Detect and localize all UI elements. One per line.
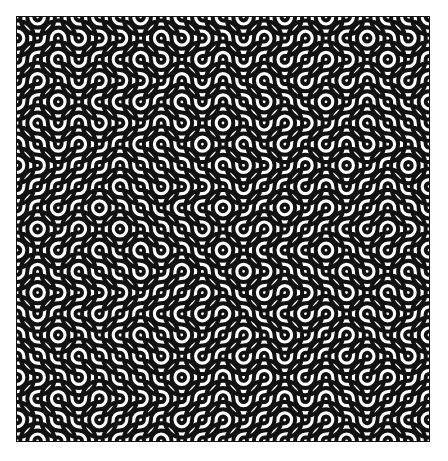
pattern-canvas	[17, 17, 429, 441]
truchet-pattern	[16, 16, 430, 442]
arc-paths	[17, 17, 429, 441]
